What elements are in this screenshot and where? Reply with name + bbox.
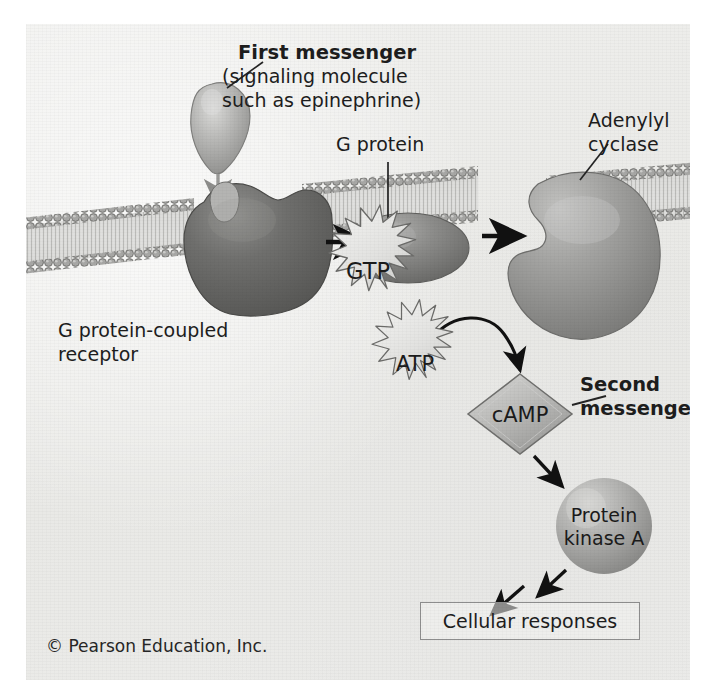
receptor-label-line1: G protein-coupled — [58, 320, 228, 341]
protein-kinase-a-line1: Protein — [571, 504, 638, 526]
plasma-membrane-left — [26, 198, 194, 274]
atp-label: ATP — [396, 352, 434, 376]
first-messenger-title: First messenger — [238, 42, 416, 64]
cellular-responses-label: Cellular responses — [443, 610, 618, 632]
receptor-label-line2: receptor — [58, 344, 138, 365]
arrow-camp-to-kinase — [534, 456, 562, 486]
camp-diamond: cAMP — [468, 374, 572, 454]
arrow-kinase-to-responses-1 — [538, 570, 566, 596]
first-messenger-subtitle-line2: such as epinephrine) — [222, 90, 421, 111]
adenylyl-cyclase-label-line2: cyclase — [588, 134, 659, 155]
second-messenger-label-line2: messenger — [580, 398, 690, 420]
gtp-label: GTP — [346, 258, 390, 284]
atp-starburst: ATP — [372, 300, 453, 380]
g-protein-coupled-receptor-shape — [184, 182, 333, 316]
camp-label: cAMP — [492, 403, 549, 427]
second-messenger-label-line1: Second — [580, 374, 660, 396]
adenylyl-cyclase-shape — [508, 172, 660, 339]
copyright-notice: © Pearson Education, Inc. — [46, 636, 267, 656]
first-messenger-subtitle-line1: (signaling molecule — [222, 66, 408, 87]
protein-kinase-a-line2: kinase A — [564, 527, 645, 549]
cellular-responses-box: Cellular responses — [420, 602, 640, 640]
scanned-page: GTP ATP cAMP — [26, 24, 690, 680]
adenylyl-cyclase-label-line1: Adenylyl — [588, 110, 670, 131]
protein-kinase-a-shape: Protein kinase A — [556, 478, 652, 574]
figure-canvas: GTP ATP cAMP — [0, 0, 710, 697]
g-protein-label: G protein — [336, 134, 424, 155]
